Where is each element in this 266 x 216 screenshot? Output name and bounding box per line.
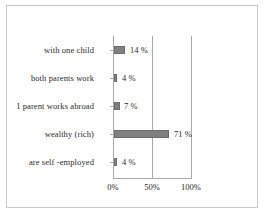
- category-label: are self -employed: [29, 157, 94, 167]
- category-label: with one child: [44, 45, 94, 55]
- bar-value-label: 71 %: [174, 129, 192, 139]
- bar: [114, 46, 125, 54]
- bar-row: both parents work 4 %: [7, 64, 257, 92]
- bar: [114, 158, 117, 166]
- bar: [114, 102, 120, 110]
- bar-row: wealthy (rich) 71 %: [7, 120, 257, 148]
- plot-area: with one child 14 % both parents work 4 …: [7, 6, 257, 207]
- x-axis-labels: 0% 50% 100%: [7, 182, 257, 196]
- x-axis-baseline: [113, 178, 192, 179]
- bar: [114, 74, 117, 82]
- bar-row: are self -employed 4 %: [7, 148, 257, 176]
- bar-row: 1 parent works abroad 7 %: [7, 92, 257, 120]
- category-label: 1 parent works abroad: [16, 101, 94, 111]
- bar-value-label: 7 %: [124, 101, 137, 111]
- x-tick-label: 50%: [144, 182, 160, 192]
- bar-row: with one child 14 %: [7, 36, 257, 64]
- x-tick-label: 100%: [181, 182, 201, 192]
- bar: [114, 130, 169, 138]
- category-label: both parents work: [31, 73, 94, 83]
- bar-value-label: 4 %: [122, 73, 135, 83]
- bar-value-label: 4 %: [122, 157, 135, 167]
- chart-frame: with one child 14 % both parents work 4 …: [6, 5, 258, 208]
- x-tick-label: 0%: [107, 182, 118, 192]
- bar-value-label: 14 %: [130, 45, 148, 55]
- category-label: wealthy (rich): [45, 129, 94, 139]
